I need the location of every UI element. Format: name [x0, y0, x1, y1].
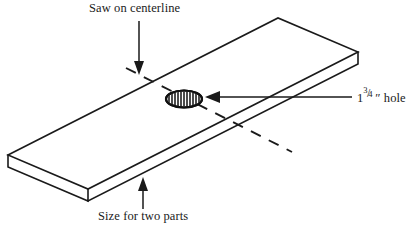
saw-leader [134, 21, 144, 75]
hole-fraction-denominator: 4 [368, 90, 372, 99]
technical-diagram: Saw on centerline Size for two parts 13/… [0, 0, 420, 234]
hole-noun: hole [384, 91, 406, 105]
hole-fraction: 3/4 [363, 89, 375, 102]
hole-unit-symbol: ″ [375, 91, 380, 105]
size-leader-arrowhead [138, 177, 148, 191]
size-for-two-parts-label: Size for two parts [98, 210, 188, 224]
size-leader [138, 177, 148, 209]
bored-hole [166, 89, 202, 109]
hole-size-label: 13/4″ hole [357, 89, 406, 105]
board-drawing [0, 0, 420, 234]
saw-on-centerline-label: Saw on centerline [89, 2, 180, 16]
board-solid [8, 18, 358, 201]
